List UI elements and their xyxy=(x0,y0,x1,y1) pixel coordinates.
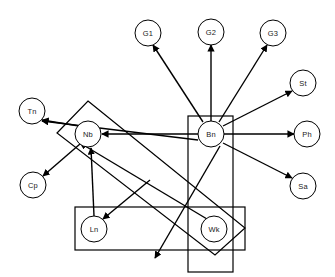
node-ln[interactable]: Ln xyxy=(81,216,107,242)
node-st[interactable]: St xyxy=(290,70,316,96)
nodes-layer: G1G2G3StTnNbBnPhSaCpLnWk xyxy=(19,19,320,242)
bn-to-g1 xyxy=(153,45,203,122)
node-label-wk: Wk xyxy=(208,225,219,234)
diagram-svg: G1G2G3StTnNbBnPhSaCpLnWk xyxy=(0,0,335,277)
node-label-cp: Cp xyxy=(28,181,38,190)
node-label-g3: G3 xyxy=(268,29,278,38)
node-label-sa: Sa xyxy=(298,182,308,191)
node-tn[interactable]: Tn xyxy=(19,98,45,124)
node-label-bn: Bn xyxy=(206,130,216,139)
node-cp[interactable]: Cp xyxy=(20,172,46,198)
node-label-g1: G1 xyxy=(143,29,153,38)
bn-to-st xyxy=(223,91,292,126)
edges-layer xyxy=(42,45,294,258)
ln-to-nb xyxy=(91,148,94,216)
node-label-ph: Ph xyxy=(302,130,312,139)
nb-to-cp xyxy=(43,144,80,176)
node-g1[interactable]: G1 xyxy=(135,20,161,46)
node-wk[interactable]: Wk xyxy=(201,216,227,242)
node-g2[interactable]: G2 xyxy=(198,19,224,45)
node-label-nb: Nb xyxy=(83,130,93,139)
node-ph[interactable]: Ph xyxy=(294,121,320,147)
node-bn[interactable]: Bn xyxy=(198,121,224,147)
diagram-canvas: G1G2G3StTnNbBnPhSaCpLnWk xyxy=(0,0,335,277)
node-g3[interactable]: G3 xyxy=(260,20,286,46)
node-label-ln: Ln xyxy=(90,225,99,234)
bn-to-tn-long xyxy=(42,121,198,140)
node-sa[interactable]: Sa xyxy=(290,173,316,199)
node-label-g2: G2 xyxy=(206,28,216,37)
node-label-tn: Tn xyxy=(27,107,36,116)
node-label-st: St xyxy=(299,79,307,88)
node-nb[interactable]: Nb xyxy=(75,121,101,147)
bn-to-g3 xyxy=(219,45,267,122)
